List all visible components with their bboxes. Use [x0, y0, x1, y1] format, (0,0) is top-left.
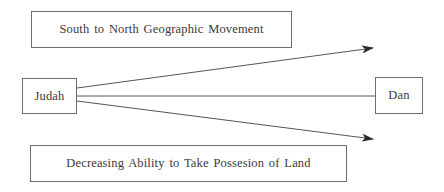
geographic-movement-label: South to North Geographic Movement [59, 22, 263, 37]
arrow-lower [77, 101, 373, 139]
decreasing-ability-label: Decreasing Ability to Take Possesion of … [66, 156, 310, 171]
node-dan: Dan [375, 77, 423, 114]
judah-label: Judah [35, 89, 65, 104]
arrow-upper [77, 48, 373, 88]
label-box-decreasing-ability: Decreasing Ability to Take Possesion of … [30, 145, 347, 182]
node-judah: Judah [22, 78, 77, 114]
label-box-geographic-movement: South to North Geographic Movement [31, 11, 292, 48]
dan-label: Dan [388, 88, 409, 103]
